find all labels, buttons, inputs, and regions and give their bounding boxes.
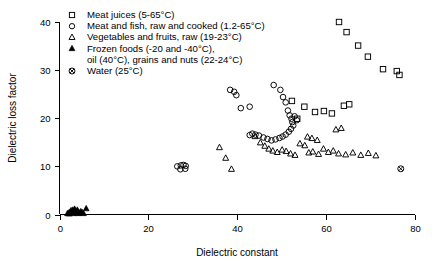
y-tick-label: 40 — [40, 17, 51, 28]
data-point — [398, 166, 404, 172]
data-point — [341, 103, 346, 108]
x-axis-title: Dielectric constant — [196, 247, 278, 258]
legend-item: Meat juices (5-65°C) — [69, 9, 174, 20]
y-tick-label: 10 — [40, 161, 51, 172]
legend-label: Frozen foods (-20 and -40°C), — [87, 43, 215, 54]
data-point — [338, 125, 344, 130]
legend-marker-open-triangle — [69, 34, 75, 39]
data-point — [380, 66, 385, 71]
legend-item: Frozen foods (-20 and -40°C), — [69, 43, 215, 54]
data-point — [343, 151, 349, 156]
legend-marker-open-circle — [69, 24, 74, 29]
data-point — [238, 105, 244, 111]
x-axis-tick-labels: 020406080 — [58, 223, 421, 234]
x-tick-label: 20 — [143, 223, 154, 234]
data-point — [223, 155, 229, 160]
data-point — [321, 108, 326, 113]
data-point — [320, 146, 326, 151]
legend: Meat juices (5-65°C)Meat and fish, raw a… — [69, 9, 265, 76]
legend-label: Meat and fish, raw and cooked (1.2-65°C) — [87, 20, 265, 31]
data-point — [344, 29, 349, 34]
data-point — [280, 94, 286, 100]
dielectric-scatter-chart: 020406080 010203040 Dielectric constant … — [0, 0, 435, 268]
data-point — [333, 126, 339, 131]
data-point — [283, 100, 289, 106]
x-tick-label: 80 — [410, 223, 421, 234]
legend-label: Water (25°C) — [87, 65, 143, 76]
series-2 — [217, 125, 379, 171]
y-axis-tick-labels: 010203040 — [40, 17, 51, 221]
y-axis-title: Dielectric loss factor — [7, 73, 18, 163]
data-point — [217, 144, 223, 149]
legend-marker-filled-triangle — [69, 45, 75, 50]
data-point — [336, 19, 341, 24]
legend-item: oil (40°C), grains and nuts (22-24°C) — [87, 54, 242, 65]
data-point — [83, 205, 89, 210]
data-point — [316, 151, 322, 156]
series-3 — [65, 205, 90, 216]
data-point — [297, 140, 303, 145]
legend-item: Water (25°C) — [69, 65, 143, 76]
x-tick-label: 0 — [58, 223, 63, 234]
x-tick-label: 40 — [232, 223, 243, 234]
data-point — [330, 148, 336, 153]
legend-label: Vegetables and fruits, raw (19-23°C) — [87, 31, 242, 42]
legend-marker-crossed-circle — [69, 68, 75, 74]
data-point — [302, 104, 307, 109]
data-point — [312, 109, 317, 114]
data-point — [310, 149, 316, 154]
y-tick-label: 20 — [40, 113, 51, 124]
legend-marker-open-square — [69, 12, 74, 17]
legend-item: Vegetables and fruits, raw (19-23°C) — [69, 31, 242, 42]
data-point — [247, 104, 253, 110]
y-axis-ticks — [55, 23, 60, 216]
data-point — [358, 152, 364, 157]
data-point — [365, 54, 370, 59]
data-point — [314, 137, 320, 142]
x-tick-label: 60 — [321, 223, 332, 234]
data-point — [229, 166, 235, 171]
data-point — [278, 87, 284, 93]
series-1 — [174, 82, 299, 172]
legend-label: Meat juices (5-65°C) — [87, 9, 175, 20]
legend-item: Meat and fish, raw and cooked (1.2-65°C) — [69, 20, 264, 31]
plot-canvas: 020406080 010203040 Dielectric constant … — [0, 0, 435, 268]
x-axis-ticks — [61, 215, 416, 220]
data-point — [347, 102, 352, 107]
data-point — [350, 150, 356, 155]
legend-label: oil (40°C), grains and nuts (22-24°C) — [87, 54, 242, 65]
data-point — [329, 111, 334, 116]
series-4 — [398, 166, 404, 172]
y-tick-label: 30 — [40, 65, 51, 76]
data-point — [304, 134, 310, 139]
data-point — [365, 150, 371, 155]
data-point — [373, 152, 379, 157]
series-0 — [289, 19, 402, 121]
data-point — [289, 98, 294, 103]
data-point — [271, 82, 277, 88]
y-tick-label: 0 — [45, 210, 50, 221]
data-point — [355, 43, 360, 48]
